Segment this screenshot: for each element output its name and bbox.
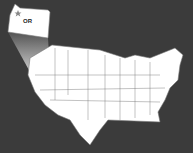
us-map: OR [0, 0, 193, 153]
continental-us-outline [28, 45, 183, 145]
state-label: OR [23, 18, 32, 24]
